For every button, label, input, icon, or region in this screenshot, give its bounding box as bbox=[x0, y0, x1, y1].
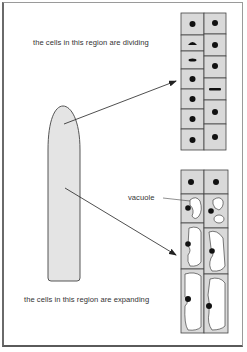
dividing-cells-grid bbox=[181, 13, 226, 150]
root-tip bbox=[48, 106, 80, 281]
arrow-to-dividing bbox=[64, 81, 176, 124]
dividing-region-label: the cells in this region are dividing bbox=[33, 38, 149, 47]
vacuole-label: vacuole bbox=[128, 193, 155, 202]
expanding-region-label: the cells in this region are expanding bbox=[24, 295, 149, 304]
arrow-to-expanding bbox=[65, 188, 176, 255]
